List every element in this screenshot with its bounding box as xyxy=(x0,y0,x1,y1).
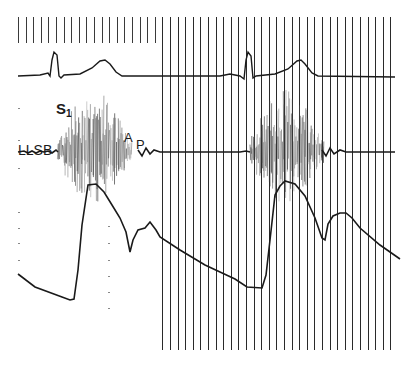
lead-label-llsb: LLSB xyxy=(18,143,52,157)
s1-label-main: S xyxy=(56,100,66,117)
tracing-canvas xyxy=(0,0,415,365)
p2-label: P xyxy=(136,138,145,151)
a2-label: A xyxy=(124,131,133,144)
vertical-time-lines xyxy=(163,17,391,350)
s1-label-sub: 1 xyxy=(66,108,72,119)
time-marker-ticks xyxy=(19,17,156,43)
phonocardiogram-figure: LLSB S1 A P xyxy=(0,0,415,365)
ecg-trace xyxy=(18,52,395,79)
s1-label: S1 xyxy=(56,101,72,119)
